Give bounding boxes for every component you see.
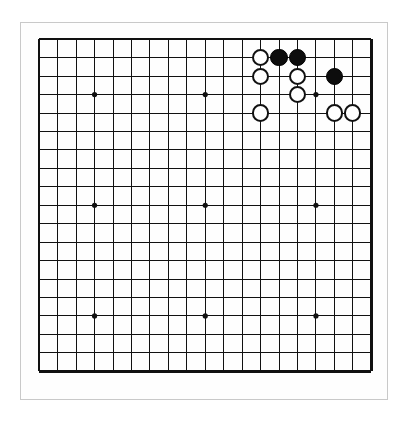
white-stone[interactable] [326,104,343,121]
white-stone[interactable] [252,68,269,85]
white-stone[interactable] [289,68,306,85]
black-stone[interactable] [289,49,306,66]
stone-layer[interactable] [38,38,373,373]
white-stone[interactable] [252,49,269,66]
go-board-screen [0,0,408,422]
white-stone[interactable] [289,86,306,103]
black-stone[interactable] [326,68,343,85]
white-stone[interactable] [252,104,269,121]
white-stone[interactable] [344,104,361,121]
go-board[interactable] [38,38,373,373]
black-stone[interactable] [270,49,287,66]
